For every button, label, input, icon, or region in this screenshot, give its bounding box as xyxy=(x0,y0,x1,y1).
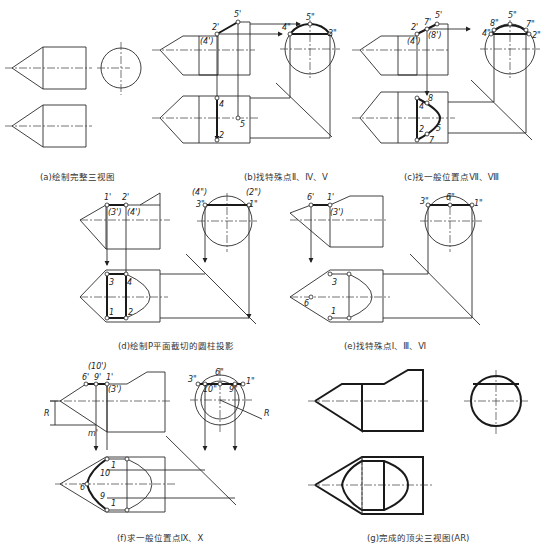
svg-text:3": 3" xyxy=(188,375,197,384)
svg-text:1": 1" xyxy=(249,200,258,209)
svg-text:1: 1 xyxy=(111,499,116,508)
svg-text:10": 10" xyxy=(203,385,217,394)
svg-text:8: 8 xyxy=(428,94,433,103)
svg-text:1: 1 xyxy=(111,461,116,470)
svg-text:7": 7" xyxy=(526,20,535,29)
svg-text:5: 5 xyxy=(436,124,441,133)
svg-text:6": 6" xyxy=(215,368,224,377)
svg-text:4: 4 xyxy=(127,278,132,287)
svg-text:10: 10 xyxy=(100,469,110,478)
svg-text:(8'): (8') xyxy=(428,31,442,40)
svg-text:3: 3 xyxy=(109,278,114,287)
svg-text:9': 9' xyxy=(94,373,101,382)
caption-d: (d)绘制P平面截切的圆柱投影 xyxy=(118,341,234,351)
svg-text:8": 8" xyxy=(490,19,499,28)
svg-text:(10'): (10') xyxy=(88,362,107,371)
svg-text:2": 2" xyxy=(328,29,337,38)
svg-text:6: 6 xyxy=(80,483,85,492)
panel-c: 2' 7' 5' (4') (8') 8" 5" 7" 4" 2" 8 4 2 … xyxy=(352,11,541,182)
svg-text:(4"): (4") xyxy=(192,188,207,197)
svg-text:(4'): (4') xyxy=(127,208,141,217)
svg-text:1": 1" xyxy=(474,199,483,208)
svg-text:4: 4 xyxy=(419,102,424,111)
svg-text:(3'): (3') xyxy=(108,385,122,394)
svg-text:5': 5' xyxy=(435,11,442,20)
svg-text:1: 1 xyxy=(109,308,114,317)
svg-text:2': 2' xyxy=(411,23,418,32)
caption-b: (b)找特殊点Ⅱ、Ⅳ、Ⅴ xyxy=(244,172,328,182)
svg-text:R: R xyxy=(44,409,50,418)
svg-text:9": 9" xyxy=(229,385,238,394)
svg-text:7: 7 xyxy=(429,136,435,145)
svg-text:2": 2" xyxy=(532,31,541,40)
svg-text:7': 7' xyxy=(424,18,431,27)
caption-f: (f)求一般位置点Ⅸ、Ⅹ xyxy=(117,533,203,543)
svg-text:6": 6" xyxy=(446,193,455,202)
svg-text:1': 1' xyxy=(104,193,111,202)
svg-text:4": 4" xyxy=(282,23,291,32)
svg-text:9: 9 xyxy=(100,492,105,501)
panel-b: 2' (4') 5' 4" 5" 2" 4 2 5 (b)找特殊点Ⅱ、Ⅳ、Ⅴ xyxy=(152,10,340,182)
svg-text:2': 2' xyxy=(122,193,129,202)
svg-text:2': 2' xyxy=(212,23,219,32)
panel-g: (g)完成的顶尖三视图(AR) xyxy=(308,370,530,543)
svg-text:(4'): (4') xyxy=(200,37,214,46)
svg-text:6': 6' xyxy=(82,373,89,382)
svg-text:5: 5 xyxy=(240,120,245,129)
panel-d: 1' 2' (3') (4') (4") (2") 3" 1" 3 4 1 2 … xyxy=(80,188,261,351)
svg-text:R: R xyxy=(264,409,270,418)
svg-text:4": 4" xyxy=(482,29,491,38)
svg-text:m': m' xyxy=(88,429,98,438)
svg-text:2: 2 xyxy=(419,125,424,134)
svg-text:3": 3" xyxy=(196,200,205,209)
svg-text:2: 2 xyxy=(128,308,133,317)
caption-c: (c)找一般位置点Ⅶ、Ⅷ xyxy=(404,172,499,182)
technical-drawing-canvas: (a)绘制完整三视图 xyxy=(0,0,551,553)
svg-text:(2"): (2") xyxy=(246,188,261,197)
svg-text:5": 5" xyxy=(508,11,517,20)
svg-text:1: 1 xyxy=(331,307,336,316)
svg-text:2: 2 xyxy=(219,131,224,140)
svg-text:(3'): (3') xyxy=(330,208,344,217)
caption-g: (g)完成的顶尖三视图(AR) xyxy=(367,533,469,543)
svg-text:(3'): (3') xyxy=(108,208,122,217)
svg-text:1': 1' xyxy=(327,193,334,202)
svg-text:6': 6' xyxy=(307,193,314,202)
svg-text:5': 5' xyxy=(234,10,241,19)
caption-e: (e)找特殊点Ⅰ、Ⅲ、Ⅵ xyxy=(344,341,426,351)
caption-a: (a)绘制完整三视图 xyxy=(40,172,115,182)
panel-f: (10') 6' 9' 1' (3') R m' 3" 6" 10" 9" 1"… xyxy=(44,362,270,543)
svg-text:3: 3 xyxy=(332,278,337,287)
svg-text:(4'): (4') xyxy=(407,37,421,46)
svg-text:6: 6 xyxy=(304,299,309,308)
svg-text:3": 3" xyxy=(420,197,429,206)
svg-text:5": 5" xyxy=(306,13,315,22)
svg-text:4: 4 xyxy=(219,100,224,109)
panel-a: (a)绘制完整三视图 xyxy=(5,42,141,182)
svg-text:1": 1" xyxy=(246,377,255,386)
panel-e: 6' 1' (3') 3" 6" 1" 3 6 1 (e)找特殊点Ⅰ、Ⅲ、Ⅵ xyxy=(290,193,483,351)
svg-text:1': 1' xyxy=(106,373,113,382)
